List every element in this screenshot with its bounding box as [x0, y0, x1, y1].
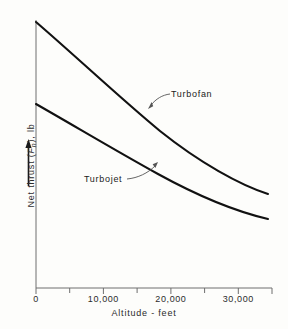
- series-label-turbofan: Turbofan: [171, 89, 212, 99]
- x-tick-label-0: 0: [33, 294, 39, 304]
- series-label-turbojet: Turbojet: [84, 174, 122, 184]
- y-axis-title-prefix: Net thrust (: [26, 153, 36, 207]
- figure-container: 0 10,000 20,000 30,000 Altitude - feet N…: [0, 0, 288, 329]
- annotation-leader-turbofan: [148, 94, 170, 109]
- series-curve-turbojet: [36, 104, 268, 219]
- x-tick-label-10000: 10,000: [88, 294, 119, 304]
- y-axis-title-suffix: ), lb: [26, 123, 36, 142]
- x-axis-title: Altitude - feet: [111, 308, 176, 318]
- x-tick-label-20000: 20,000: [155, 294, 186, 304]
- y-axis-title-symbol: F: [26, 147, 36, 153]
- y-axis-title-subscript: n: [30, 142, 37, 147]
- y-axis-title: Net thrust (Fn), lb: [26, 86, 37, 246]
- x-tick-label-30000: 30,000: [223, 294, 254, 304]
- chart-plot-area: [0, 0, 288, 329]
